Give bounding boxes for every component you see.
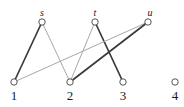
graph-canvas <box>0 0 184 107</box>
graph-node-1 <box>11 79 17 85</box>
graph-node-4 <box>172 79 178 85</box>
graph-node-2 <box>67 79 73 85</box>
graph-node-s <box>39 19 45 25</box>
edge-layer <box>14 22 148 82</box>
graph-edge-s-1 <box>14 22 42 82</box>
graph-node-3 <box>120 79 126 85</box>
graph-node-u <box>145 19 151 25</box>
bipartite-graph-figure: stu1234 <box>0 0 184 107</box>
node-layer <box>11 19 178 85</box>
graph-node-t <box>92 19 98 25</box>
graph-edge-s-2 <box>42 22 70 82</box>
